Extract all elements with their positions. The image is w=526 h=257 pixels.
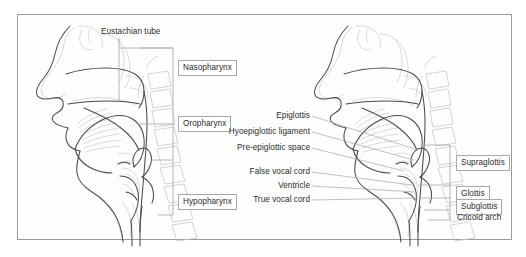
- label-cricoid-arch: Cricoid arch: [457, 213, 501, 223]
- label-true-vocal-cord: True vocal cord: [160, 195, 310, 205]
- larynx-bracket: [418, 145, 450, 220]
- label-pre-epiglottic-space: Pre-epiglottic space: [160, 143, 310, 153]
- right-anatomy-drawing: [314, 26, 475, 246]
- label-epiglottis: Epiglottis: [160, 111, 310, 121]
- label-hyoepiglottic-ligament: Hyoepiglottic ligament: [160, 127, 310, 137]
- larynx-leader-lines: [312, 116, 418, 200]
- anatomy-figure: Eustachian tube Nasopharynx Oropharynx H…: [0, 0, 526, 257]
- label-supraglottis: Supraglottis: [456, 155, 510, 171]
- label-nasopharynx: Nasopharynx: [178, 60, 237, 76]
- label-eustachian-tube: Eustachian tube: [101, 27, 160, 37]
- eustachian-tube-leader: [119, 38, 173, 101]
- label-false-vocal-cord: False vocal cord: [160, 167, 310, 177]
- label-ventricle: Ventricle: [160, 181, 310, 191]
